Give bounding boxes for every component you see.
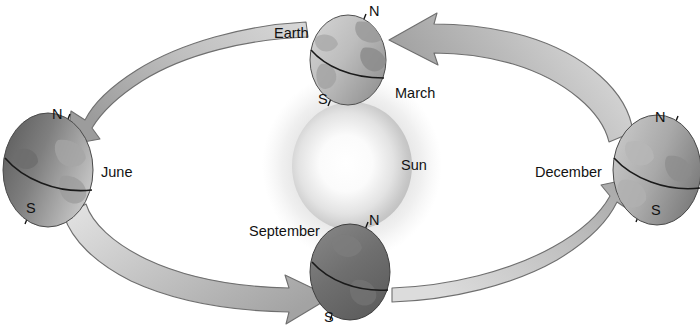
label-december-south-pole: S — [651, 203, 661, 218]
sun-disc — [292, 102, 412, 230]
label-march-south-pole: S — [318, 92, 328, 107]
earth-orbit-diagram: Earth N S March N S June N S September N… — [0, 0, 700, 331]
label-month-september: September — [249, 224, 320, 239]
label-month-december: December — [535, 165, 602, 180]
label-june-north-pole: N — [52, 107, 62, 122]
label-september-south-pole: S — [324, 310, 334, 325]
label-earth: Earth — [274, 26, 309, 41]
label-december-north-pole: N — [655, 110, 665, 125]
earth-june — [3, 113, 93, 227]
label-march-north-pole: N — [369, 4, 379, 19]
label-sun: Sun — [401, 158, 427, 173]
label-month-june: June — [101, 165, 132, 180]
label-september-north-pole: N — [369, 213, 379, 228]
label-month-march: March — [395, 86, 435, 101]
label-june-south-pole: S — [26, 201, 36, 216]
